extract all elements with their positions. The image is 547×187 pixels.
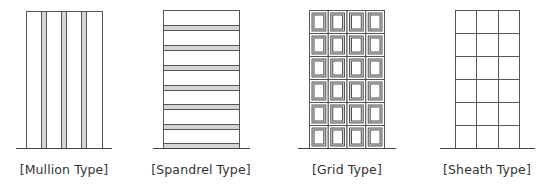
spandrel-type-building xyxy=(153,11,250,149)
grid-cells xyxy=(310,11,385,149)
sheath-type-building xyxy=(440,11,535,149)
mullion-type-building xyxy=(16,12,112,149)
curtain-wall-types-diagram xyxy=(0,0,547,187)
spandrel-type-label: [Spandrel Type] xyxy=(151,162,250,177)
sheath-type-label: [Sheath Type] xyxy=(443,162,531,177)
grid-type-label: [Grid Type] xyxy=(312,162,382,177)
grid-type-building xyxy=(298,11,396,149)
mullion-type-label: [Mullion Type] xyxy=(20,162,109,177)
